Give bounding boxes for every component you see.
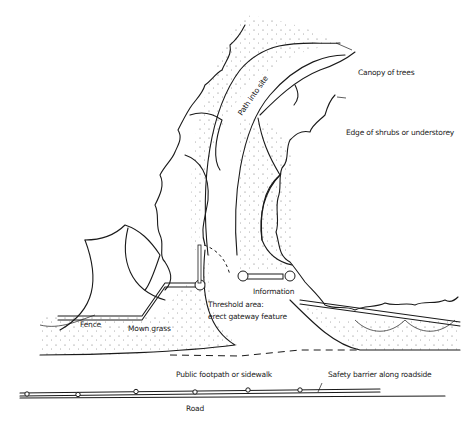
label-safety-barrier: Safety barrier along roadside [328, 370, 432, 379]
label-information: Information [253, 287, 294, 296]
label-threshold-2: erect gateway feature [208, 312, 287, 321]
boundary-dashed-line [170, 350, 360, 356]
label-road: Road [186, 404, 204, 413]
label-shrub-edge: Edge of shrubs or understorey [346, 128, 454, 137]
label-footpath: Public footpath or sidewalk [176, 370, 272, 379]
safety-barrier [20, 388, 380, 397]
information-board [238, 271, 295, 281]
label-fence: Fence [80, 320, 101, 329]
label-canopy-of-trees: Canopy of trees [358, 68, 414, 77]
sketch-drawing [0, 0, 472, 430]
site-sketch: Path into site Canopy of trees Edge of s… [0, 0, 472, 430]
label-threshold-1: Threshold area: [208, 300, 264, 309]
road-edge [20, 396, 445, 398]
label-mown-grass: Mown grass [128, 324, 171, 333]
